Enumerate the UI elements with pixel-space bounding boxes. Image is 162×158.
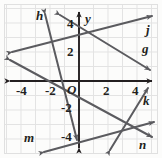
x-tick-label--2: -2	[45, 84, 56, 97]
y-tick-label-4: 4	[67, 17, 74, 30]
x-tick-label-4: 4	[132, 84, 139, 97]
y-tick-label-2: 2	[67, 45, 74, 58]
y-axis-label: y	[85, 12, 91, 25]
x-tick-label-2: 2	[103, 84, 110, 97]
line-label-k: k	[143, 94, 150, 107]
x-tick-label--4: -4	[16, 84, 27, 97]
line-label-j: j	[146, 23, 150, 36]
y-tick-label--2: -2	[61, 101, 72, 114]
line-label-n: n	[139, 138, 146, 151]
origin-label: O	[67, 83, 76, 96]
line-label-h: h	[36, 9, 43, 22]
line-label-g: g	[142, 42, 149, 55]
coordinate-plane-figure: -4 -2 2 4 4 2 -2 -4 O y h j g m k n	[0, 0, 162, 158]
line-label-m: m	[24, 131, 34, 144]
y-tick-label--4: -4	[61, 130, 72, 143]
